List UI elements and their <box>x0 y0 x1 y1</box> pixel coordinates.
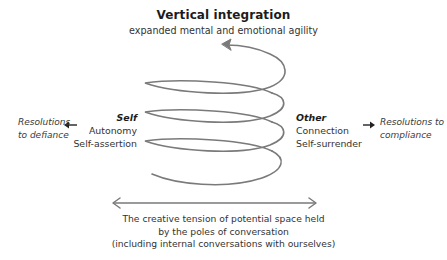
resolution-left-line-1: Resolutions <box>18 116 70 129</box>
double-headed-horizontal-arrow-icon <box>113 198 316 208</box>
right-arrow-icon <box>363 122 375 129</box>
caption-line-3: (including internal conversations with o… <box>0 238 447 251</box>
pole-self: Self Autonomy Self-assertion <box>73 111 137 151</box>
title-block: Vertical integration expanded mental and… <box>0 8 447 37</box>
pole-self-line-1: Autonomy <box>73 124 137 137</box>
pole-self-line-2: Self-assertion <box>73 137 137 150</box>
caption-line-1: The creative tension of potential space … <box>0 213 447 226</box>
resolution-right-line-1: Resolutions to <box>380 116 444 129</box>
pole-other: Other Connection Self-surrender <box>296 111 362 151</box>
diagram-title: Vertical integration <box>0 8 447 23</box>
caption-line-2: by the poles of conversation <box>0 226 447 239</box>
caption: The creative tension of potential space … <box>0 213 447 251</box>
resolution-compliance: Resolutions to compliance <box>380 116 444 142</box>
diagram-subtitle: expanded mental and emotional agility <box>0 24 447 37</box>
resolution-right-line-2: compliance <box>380 129 444 142</box>
pole-self-heading: Self <box>73 111 137 124</box>
pole-other-heading: Other <box>296 111 362 124</box>
resolution-defiance: Resolutions to defiance <box>18 116 70 142</box>
pole-other-line-2: Self-surrender <box>296 137 362 150</box>
pole-other-line-1: Connection <box>296 124 362 137</box>
resolution-left-line-2: to defiance <box>18 129 70 142</box>
upward-spiral-arrow-icon <box>145 39 285 185</box>
